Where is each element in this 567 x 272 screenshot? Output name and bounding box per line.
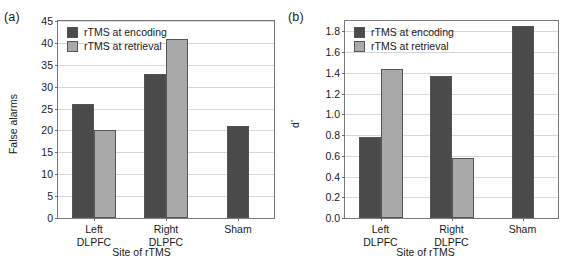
y-tick-label: 10 bbox=[41, 169, 53, 180]
x-tick-mark bbox=[238, 218, 239, 221]
y-tick-label: 5 bbox=[47, 191, 53, 202]
legend-label-encoding: rTMS at encoding bbox=[84, 27, 167, 38]
y-tick-label: 1.4 bbox=[325, 68, 340, 79]
panel-b-plot-area: 0.00.20.40.60.81.01.21.41.61.8 LeftDLPFC… bbox=[344, 20, 559, 219]
panel-a: (a) False alarms 051015202530354045 Left… bbox=[0, 0, 283, 272]
y-tick-label: 1.8 bbox=[325, 26, 340, 37]
panel-b-label: (b) bbox=[288, 10, 304, 24]
x-tick-label: Sham bbox=[224, 223, 251, 236]
panel-a-legend: rTMS at encoding rTMS at retrieval bbox=[67, 27, 167, 52]
x-tick-label-line: Left bbox=[77, 223, 111, 236]
y-tick-label: 45 bbox=[41, 16, 53, 27]
legend-label-retrieval: rTMS at retrieval bbox=[371, 41, 449, 52]
x-tick-label-line: Sham bbox=[509, 223, 536, 236]
y-tick-label: 0.8 bbox=[325, 130, 340, 141]
y-tick-label: 0.0 bbox=[325, 213, 340, 224]
bar bbox=[94, 130, 116, 218]
y-tick-label: 35 bbox=[41, 60, 53, 71]
panel-b-y-axis-title: d' bbox=[289, 94, 301, 154]
x-tick-mark bbox=[381, 218, 382, 221]
bar bbox=[166, 39, 188, 218]
y-tick-label: 30 bbox=[41, 81, 53, 92]
legend-item-encoding: rTMS at encoding bbox=[67, 27, 167, 38]
y-tick-label: 0.2 bbox=[325, 192, 340, 203]
x-tick-label-line: Left bbox=[363, 223, 397, 236]
legend-item-retrieval: rTMS at retrieval bbox=[354, 41, 454, 52]
bar bbox=[430, 76, 452, 218]
x-tick-mark bbox=[166, 218, 167, 221]
panel-a-x-axis-title: Site of rTMS bbox=[0, 246, 283, 258]
bar bbox=[512, 26, 534, 218]
x-tick-label-line: Sham bbox=[224, 223, 251, 236]
legend-label-encoding: rTMS at encoding bbox=[371, 27, 454, 38]
x-tick-label-line: Right bbox=[149, 223, 183, 236]
y-tick-label: 15 bbox=[41, 147, 53, 158]
x-tick-mark bbox=[94, 218, 95, 221]
y-tick-mark bbox=[342, 218, 345, 219]
y-tick-mark bbox=[55, 218, 58, 219]
y-tick-label: 40 bbox=[41, 38, 53, 49]
y-tick-label: 0.4 bbox=[325, 171, 340, 182]
bar bbox=[144, 74, 166, 218]
y-tick-label: 1.6 bbox=[325, 47, 340, 58]
bar bbox=[381, 69, 403, 218]
legend-swatch-retrieval-icon bbox=[67, 41, 78, 52]
panel-a-y-axis-title: False alarms bbox=[7, 85, 19, 163]
panel-b-x-axis-title: Site of rTMS bbox=[284, 246, 567, 258]
x-tick-mark bbox=[452, 218, 453, 221]
y-tick-label: 0.6 bbox=[325, 151, 340, 162]
bar bbox=[452, 158, 474, 218]
bar bbox=[227, 126, 249, 218]
legend-swatch-encoding-icon bbox=[67, 27, 78, 38]
y-tick-label: 25 bbox=[41, 103, 53, 114]
legend-swatch-retrieval-icon bbox=[354, 41, 365, 52]
figure-container: (a) False alarms 051015202530354045 Left… bbox=[0, 0, 567, 272]
legend-item-encoding: rTMS at encoding bbox=[354, 27, 454, 38]
x-tick-label-line: Right bbox=[434, 223, 468, 236]
y-tick-label: 20 bbox=[41, 125, 53, 136]
x-tick-mark bbox=[523, 218, 524, 221]
panel-b-legend: rTMS at encoding rTMS at retrieval bbox=[354, 27, 454, 52]
bar bbox=[72, 104, 94, 218]
bar bbox=[359, 137, 381, 218]
y-tick-label: 1.0 bbox=[325, 109, 340, 120]
panel-a-label: (a) bbox=[4, 10, 20, 24]
y-tick-label: 0 bbox=[47, 213, 53, 224]
legend-swatch-encoding-icon bbox=[354, 27, 365, 38]
panel-a-plot-area: 051015202530354045 LeftDLPFCRightDLPFCSh… bbox=[57, 20, 275, 219]
legend-item-retrieval: rTMS at retrieval bbox=[67, 41, 167, 52]
y-tick-label: 1.2 bbox=[325, 88, 340, 99]
panel-b: (b) d' 0.00.20.40.60.81.01.21.41.61.8 Le… bbox=[284, 0, 567, 272]
x-tick-label: Sham bbox=[509, 223, 536, 236]
legend-label-retrieval: rTMS at retrieval bbox=[84, 41, 162, 52]
